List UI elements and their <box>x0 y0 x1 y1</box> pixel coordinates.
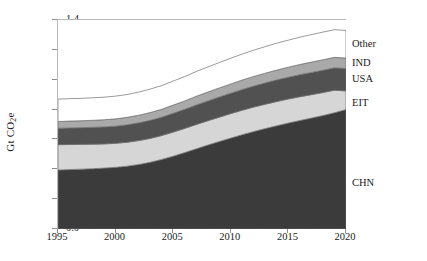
series-label-eit: EIT <box>352 98 368 109</box>
series-label-other: Other <box>352 38 376 49</box>
y-axis-title-text: Gt CO2e <box>4 112 18 151</box>
series-label-usa: USA <box>352 73 373 84</box>
x-axis-tick-label: 2015 <box>257 232 317 243</box>
area-series-group <box>58 20 346 229</box>
series-label-chn: CHN <box>352 178 374 189</box>
series-label-ind: IND <box>352 58 371 69</box>
x-axis-tick-label: 2005 <box>142 232 202 243</box>
stacked-area-chart: Gt CO2e 0.00.20.40.60.81.01.21.4 1995200… <box>0 0 427 261</box>
plot-area <box>57 19 346 229</box>
x-axis-tick-label: 1995 <box>27 232 87 243</box>
x-axis-tick-label: 2020 <box>315 232 375 243</box>
x-axis-tick-label: 2010 <box>200 232 260 243</box>
x-axis-tick-label: 2000 <box>85 232 145 243</box>
